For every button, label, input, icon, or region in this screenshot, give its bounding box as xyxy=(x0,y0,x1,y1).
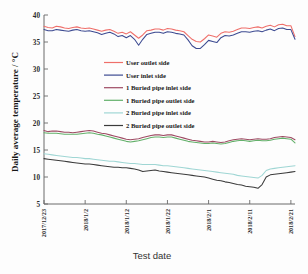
y-tick-label: 25 xyxy=(33,93,41,101)
y-tick-label: 40 xyxy=(33,12,41,20)
y-axis-title-text: Daily average temperature / °C xyxy=(10,52,20,172)
series-line-5 xyxy=(44,159,295,189)
y-tick-label: 30 xyxy=(33,66,41,74)
x-axis-ticks: 2017/12/232018/1/22018/1/122018/1/222018… xyxy=(40,200,294,237)
x-tick-label: 2018/1/2 xyxy=(82,209,89,231)
legend-label-1[interactable]: User inlet side xyxy=(126,72,166,79)
x-tick-label: 2018/2/11 xyxy=(246,209,253,234)
y-axis-title: Daily average temperature / °C xyxy=(10,52,20,172)
chart-legend[interactable]: User outlet sideUser inlet side1 Buried … xyxy=(104,59,195,129)
series-group xyxy=(44,24,295,188)
chart-container: Daily average temperature / °C 510152025… xyxy=(0,0,308,274)
legend-label-3[interactable]: 1 Buried pipe outlet side xyxy=(126,97,195,104)
series-line-1 xyxy=(44,28,295,49)
x-tick-label: 2018/1/22 xyxy=(164,209,171,234)
x-axis-title-text: Test date xyxy=(133,250,172,261)
legend-label-5[interactable]: 2 Buried pipe outlet side xyxy=(126,122,195,129)
y-tick-label: 35 xyxy=(33,39,41,47)
y-tick-label: 20 xyxy=(33,120,41,128)
y-tick-label: 10 xyxy=(33,174,41,182)
x-tick-label: 2018/2/1 xyxy=(205,209,212,231)
legend-label-0[interactable]: User outlet side xyxy=(126,59,170,66)
y-tick-label: 15 xyxy=(33,147,41,155)
legend-label-4[interactable]: 2 Buried pipe inlet side xyxy=(126,109,191,116)
y-axis-ticks: 510152025303540 xyxy=(33,12,48,209)
x-tick-label: 2018/2/21 xyxy=(287,209,294,234)
series-line-4 xyxy=(44,154,295,178)
x-tick-label: 2018/1/12 xyxy=(123,209,130,234)
x-tick-label: 2017/12/23 xyxy=(40,209,47,237)
y-tick-label: 5 xyxy=(36,201,40,209)
series-line-0 xyxy=(44,24,295,42)
legend-label-2[interactable]: 1 Buried pipe inlet side xyxy=(126,84,191,91)
line-chart: Daily average temperature / °C 510152025… xyxy=(0,0,308,274)
